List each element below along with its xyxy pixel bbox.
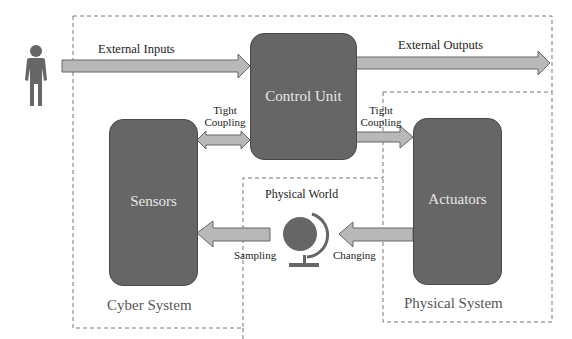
control-unit-label: Control Unit [265,88,341,105]
external-inputs-arrow [62,54,250,78]
person-icon [25,45,47,106]
actuators-label: Actuators [428,191,486,208]
sampling-label: Sampling [234,249,276,261]
sampling-arrow [197,221,270,247]
cyber-system-label: Cyber System [107,297,192,314]
external-outputs-label: External Outputs [398,38,483,53]
tight-coupling-right-arrow [356,126,413,148]
external-inputs-label: External Inputs [98,42,175,57]
control-unit-block: Control Unit [250,33,357,160]
sensors-label: Sensors [130,193,177,210]
tight-coupling-left-label: Tight Coupling [204,104,246,128]
globe-icon [283,214,328,267]
physical-world-label: Physical World [265,187,338,202]
tight-coupling-right-label: Tight Coupling [360,104,402,128]
changing-label: Changing [333,249,376,261]
physical-system-label: Physical System [404,295,503,312]
changing-arrow [339,222,413,247]
external-outputs-arrow [356,51,550,75]
actuators-block: Actuators [413,118,502,285]
sensors-block: Sensors [109,119,198,286]
tight-coupling-left-arrow [197,131,250,149]
